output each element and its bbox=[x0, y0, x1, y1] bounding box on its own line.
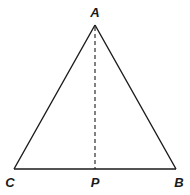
triangle-diagram: A C P B bbox=[0, 0, 190, 195]
label-b: B bbox=[174, 175, 183, 190]
side-ac bbox=[14, 25, 95, 169]
label-a: A bbox=[89, 5, 99, 20]
label-c: C bbox=[5, 175, 15, 190]
side-ab bbox=[95, 25, 176, 169]
label-p: P bbox=[91, 175, 100, 190]
